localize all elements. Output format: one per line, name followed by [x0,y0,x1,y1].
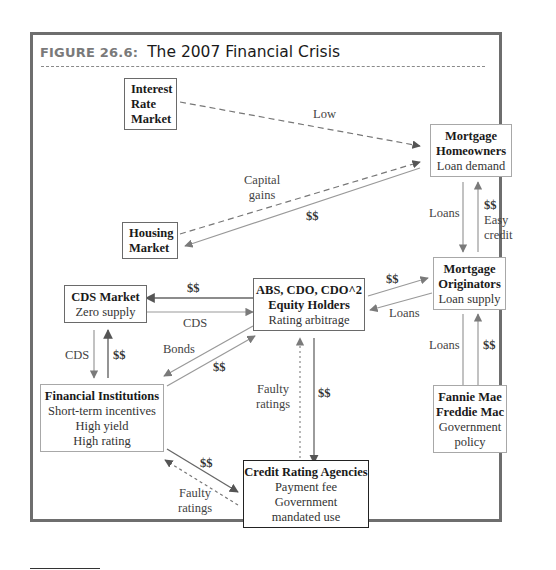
label-fi-abs-dollars: $$ [213,360,226,375]
label-originators-abs-loans: Loans [389,306,420,321]
arrow-homeowners-to-housing [185,168,420,246]
label-capital-gains: Capital gains [244,173,280,203]
node-credit-rating-agencies: Credit Rating Agencies Payment fee Gover… [243,460,369,528]
node-abs-cdo-equity-holders: ABS, CDO, CDO^2 Equity Holders Rating ar… [253,278,365,331]
label-abs-cra-dollars: $$ [318,386,331,401]
node-financial-institutions: Financial Institutions Short-term incent… [40,384,164,452]
label-bonds: Bonds [163,342,195,357]
label-abs-originators-dollars: $$ [386,272,399,287]
label-abs-cds-dollars: $$ [187,281,200,296]
label-homeowners-housing-dollars: $$ [306,209,319,224]
node-cds-market: CDS Market Zero supply [64,285,147,323]
label-cds-fi-cds: CDS [65,348,89,363]
arrow-housing-to-homeowners [180,162,420,234]
node-fannie-freddie: Fannie Mae Freddie Mac Government policy [433,385,507,453]
node-interest-rate-market: Interest Rate Market [124,78,177,130]
label-low: Low [313,107,336,122]
label-homeowners-originators-loans: Loans [429,206,460,221]
footnote-rule [30,568,100,569]
label-fi-cra-dollars: $$ [200,456,213,471]
label-cra-fi-faulty-ratings: Faulty ratings [178,486,212,516]
label-cra-abs-faulty-ratings: Faulty ratings [256,382,290,412]
node-mortgage-originators: Mortgage Originators Loan supply [433,257,506,310]
label-originators-fannie-loans: Loans [429,338,460,353]
node-mortgage-homeowners: Mortgage Homeowners Loan demand [430,124,512,177]
arrow-interest-to-homeowners [180,102,420,146]
label-fannie-originators-dollars: $$ [483,338,496,353]
node-housing-market: Housing Market [122,222,178,259]
label-easy-credit: $$ Easy credit [484,198,512,243]
label-cds-abs-cds: CDS [183,316,207,331]
label-fi-cds-dollars: $$ [113,348,126,363]
